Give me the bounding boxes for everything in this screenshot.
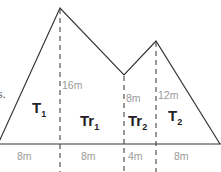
- base-label-4: 8m: [174, 150, 189, 162]
- figure-outline: [0, 8, 220, 144]
- region-label-tr2: Tr2: [128, 112, 147, 132]
- region-label-tr1: Tr1: [80, 112, 99, 132]
- area-diagram: s. T1 Tr1 Tr2 T2 16m 8m 12m 8m 8m 4m 8m: [0, 0, 221, 172]
- height-label-8m: 8m: [126, 92, 141, 104]
- base-label-3: 4m: [128, 150, 143, 162]
- height-label-12m: 12m: [158, 89, 179, 101]
- base-label-2: 8m: [81, 150, 96, 162]
- height-label-16m: 16m: [62, 79, 83, 91]
- region-label-t2: T2: [168, 107, 182, 127]
- region-label-t1: T1: [32, 99, 46, 119]
- base-label-1: 8m: [17, 150, 32, 162]
- left-fragment-text: s.: [0, 87, 6, 101]
